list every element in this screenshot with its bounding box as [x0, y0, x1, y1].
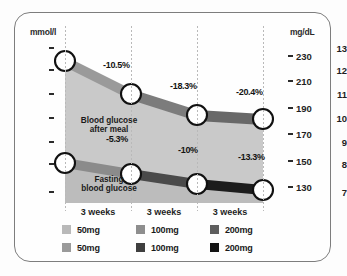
right-axis-tick-230: 230 [296, 51, 312, 62]
left-tick-mark [49, 93, 54, 95]
legend-row-after-meal: 50mg 100mg 200mg [62, 222, 292, 237]
series-label-after-meal-line1: Blood glucose [81, 116, 137, 125]
series-label-after-meal: Blood glucose after meal [65, 116, 153, 134]
interval-label-1: 3 weeks [65, 207, 131, 217]
legend-swatch-icon [62, 225, 71, 234]
legend-row-fasting: 50mg 100mg 200mg [62, 240, 292, 255]
left-axis-tick-10: 10 [321, 113, 347, 124]
plot-area: Blood glucose after meal Fasting blood g… [57, 38, 272, 203]
pct-after-meal-week3: -10.5% [103, 60, 130, 70]
pct-after-meal-week6: -18.3% [170, 81, 197, 91]
right-tick-mark [288, 133, 293, 135]
legend-label: 100mg [151, 225, 179, 235]
series-label-after-meal-line2: after meal [90, 125, 129, 134]
right-tick-mark [288, 107, 293, 109]
legend-item-fasting-200mg[interactable]: 200mg [210, 243, 284, 253]
left-tick-mark [49, 69, 54, 71]
interval-label-2: 3 weeks [131, 207, 197, 217]
left-tick-mark [49, 163, 54, 165]
left-axis-tick-8: 8 [321, 159, 347, 170]
pct-fasting-week3: -5.3% [106, 134, 128, 144]
series-label-fasting: Fasting blood glucose [63, 175, 155, 193]
legend-label: 200mg [225, 225, 253, 235]
right-axis-unit-label: mg/dL [290, 27, 315, 37]
legend-label: 100mg [151, 243, 179, 253]
legend-item-after-meal-200mg[interactable]: 200mg [210, 225, 284, 235]
right-tick-mark [288, 55, 293, 57]
left-axis-tick-13: 13 [321, 43, 347, 54]
series-label-fasting-line2: blood glucose [81, 184, 137, 193]
left-axis-unit-label: mmol/l [30, 27, 56, 37]
legend-swatch-icon [62, 243, 71, 252]
left-axis-tick-7: 7 [321, 187, 347, 198]
interval-label-3: 3 weeks [197, 207, 263, 217]
left-tick-mark [49, 47, 54, 49]
gridline-week9 [263, 26, 264, 211]
right-axis-tick-170: 170 [296, 129, 312, 140]
right-tick-mark [288, 160, 293, 162]
left-axis-tick-11: 11 [321, 89, 347, 100]
legend-item-fasting-50mg[interactable]: 50mg [62, 243, 136, 253]
pct-after-meal-week9: -20.4% [236, 87, 263, 97]
right-axis-tick-150: 150 [296, 156, 312, 167]
legend-item-fasting-100mg[interactable]: 100mg [136, 243, 210, 253]
right-axis-tick-190: 190 [296, 103, 312, 114]
right-axis-tick-130: 130 [296, 182, 312, 193]
pct-fasting-week9: -13.3% [238, 152, 265, 162]
left-tick-mark [49, 117, 54, 119]
left-tick-mark [49, 141, 54, 143]
pct-fasting-week6: -10% [178, 145, 198, 155]
legend-label: 50mg [77, 225, 100, 235]
left-axis-tick-9: 9 [321, 137, 347, 148]
legend-swatch-icon [210, 225, 219, 234]
right-tick-mark [288, 186, 293, 188]
legend-label: 50mg [77, 243, 100, 253]
legend-label: 200mg [225, 243, 253, 253]
left-axis-tick-12: 12 [321, 65, 347, 76]
legend-item-after-meal-50mg[interactable]: 50mg [62, 225, 136, 235]
chart-legend: 50mg 100mg 200mg 50mg 100mg 200mg [62, 222, 292, 255]
legend-swatch-icon [136, 225, 145, 234]
right-tick-mark [288, 80, 293, 82]
legend-swatch-icon [136, 243, 145, 252]
legend-swatch-icon [210, 243, 219, 252]
series-label-fasting-line1: Fasting [94, 175, 123, 184]
chart-screenshot: mmol/l 13 12 11 10 9 8 7 mg/dL 230 210 1… [0, 0, 347, 276]
legend-item-after-meal-100mg[interactable]: 100mg [136, 225, 210, 235]
right-axis-tick-210: 210 [296, 76, 312, 87]
left-tick-mark [49, 191, 54, 193]
gridline-week6 [197, 26, 198, 211]
